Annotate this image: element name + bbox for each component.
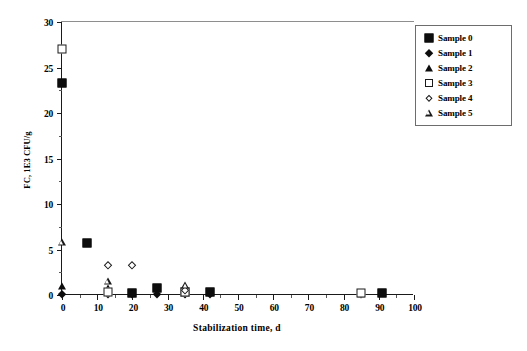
x-tick-label: 70: [305, 303, 314, 313]
y-tick-label: 25: [44, 64, 53, 74]
x-tick: 40: [203, 295, 204, 300]
x-tick: 70: [308, 295, 309, 300]
x-tick-label: 20: [129, 303, 138, 313]
legend-label: Sample 3: [438, 78, 472, 88]
x-tick-label: 80: [340, 303, 349, 313]
chart-figure: FC, 1E3 CFU/g Stabilization time, d 0510…: [0, 0, 527, 351]
legend-label: Sample 1: [438, 48, 472, 58]
legend-item: Sample 2: [416, 60, 511, 75]
x-tick: 50: [238, 295, 239, 300]
legend-swatch: [422, 46, 436, 60]
legend-swatch: [422, 91, 436, 105]
x-tick: 30: [168, 295, 169, 300]
series-group: [62, 22, 414, 295]
x-tick-minor: [291, 295, 292, 298]
x-axis-title: Stabilization time, d: [193, 323, 281, 333]
y-tick-label: 5: [48, 246, 53, 256]
legend-item: Sample 5: [416, 105, 511, 120]
open-square-marker-icon: [425, 79, 433, 87]
x-tick-label: 40: [199, 303, 208, 313]
x-tick: 0: [62, 295, 63, 300]
x-tick: 80: [344, 295, 345, 300]
legend-swatch: [422, 106, 436, 120]
legend-label: Sample 0: [438, 33, 472, 43]
legend-label: Sample 2: [438, 63, 472, 73]
y-tick-label: 0: [48, 291, 53, 301]
legend-label: Sample 5: [438, 108, 472, 118]
x-tick-minor: [220, 295, 221, 298]
x-tick-label: 100: [408, 303, 422, 313]
open-diamond-marker-icon: [426, 94, 432, 100]
y-tick-label: 10: [44, 200, 53, 210]
x-tick-label: 60: [270, 303, 279, 313]
filled-diamond-marker-icon: [425, 49, 433, 57]
filled-square-marker-icon: [425, 33, 434, 42]
legend-item: Sample 1: [416, 45, 511, 60]
legend-label: Sample 4: [438, 93, 472, 103]
x-tick-label: 50: [234, 303, 243, 313]
legend-swatch: [422, 31, 436, 45]
x-tick-label: 90: [375, 303, 384, 313]
x-tick: 100: [414, 295, 415, 300]
x-tick: 90: [379, 295, 380, 300]
x-tick: 20: [132, 295, 133, 300]
x-tick-label: 10: [94, 303, 103, 313]
data-markers-layer: [62, 22, 414, 295]
data-point: [58, 239, 66, 246]
x-tick-minor: [185, 295, 186, 298]
x-tick-minor: [326, 295, 327, 298]
x-tick-label: 0: [61, 303, 66, 313]
x-tick-minor: [150, 295, 151, 298]
filled-triangle-marker-icon: [425, 64, 433, 71]
legend-item: Sample 4: [416, 90, 511, 105]
x-tick: 60: [273, 295, 274, 300]
legend-swatch: [422, 76, 436, 90]
legend-item: Sample 3: [416, 75, 511, 90]
data-point: [104, 278, 112, 285]
x-tick-minor: [396, 295, 397, 298]
x-tick-label: 30: [164, 303, 173, 313]
x-tick-minor: [256, 295, 257, 298]
legend-swatch: [422, 61, 436, 75]
data-point: [181, 281, 189, 288]
x-tick-minor: [361, 295, 362, 298]
plot-area: 051015202530 0102030405060708090100: [61, 22, 413, 295]
y-tick-label: 20: [44, 109, 53, 119]
x-tick-minor: [80, 295, 81, 298]
legend-item: Sample 0: [416, 30, 511, 45]
legend: Sample 0Sample 1Sample 2Sample 3Sample 4…: [415, 25, 512, 126]
open-triangle-marker-icon: [425, 109, 433, 116]
y-tick-label: 30: [44, 18, 53, 28]
x-tick: 10: [97, 295, 98, 300]
y-tick-label: 15: [44, 155, 53, 165]
y-axis-title: FC, 1E3 CFU/g: [22, 131, 32, 188]
x-tick-minor: [115, 295, 116, 298]
